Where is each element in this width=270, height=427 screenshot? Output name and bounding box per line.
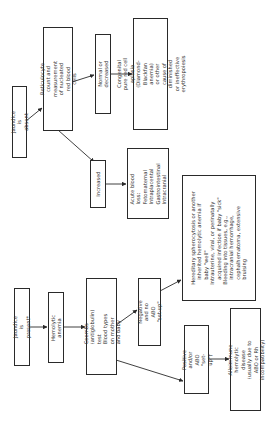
- box-negative-no-abo: Negative and no ABO "set-up": [138, 278, 161, 346]
- box-alloimmune-hemolytic: Alloimmune hemolytic disease (usually du…: [230, 308, 261, 411]
- label-increased: Increased: [95, 171, 101, 196]
- label-hereditary-spherocytosis: Hereditary spherocytosis or another inhe…: [190, 191, 248, 285]
- box-increased: Increased: [90, 160, 106, 208]
- box-hereditary-spherocytosis: Hereditary spherocytosis or another inhe…: [182, 175, 256, 301]
- label-coombs-test: Coombs (antiglobulin) test Blood types o…: [82, 309, 120, 344]
- box-coombs-test: Coombs (antiglobulin) test Blood types o…: [86, 278, 117, 375]
- box-congenital-aplasia: Congenital pure red cell aplasia (Diamon…: [133, 18, 168, 130]
- label-congenital-aplasia: Congenital pure red cell aplasia (Diamon…: [115, 56, 185, 93]
- box-hemolytic-anemia: Hemolytic anemia: [48, 292, 64, 363]
- label-jaundice-absent: Jaundice is absent: [10, 111, 29, 133]
- label-jaundice-present: Jaundice is present*: [12, 316, 31, 338]
- box-reticulocyte-count: Reticulocyte count and measurement of nu…: [43, 27, 73, 131]
- box-jaundice-present: Jaundice is present*: [14, 288, 30, 366]
- box-acute-blood-loss: Acute blood loss: Fetomaternal Intraplac…: [127, 148, 169, 219]
- label-hemolytic-anemia: Hemolytic anemia: [50, 314, 63, 340]
- label-normal-or-decreased: Normal or decreased: [97, 61, 110, 88]
- label-alloimmune-hemolytic: Alloimmune hemolytic disease (usually du…: [226, 339, 264, 380]
- box-jaundice-absent: Jaundice is absent: [12, 86, 27, 158]
- label-positive-abo: Positive and/or ABO "set-up"†: [180, 350, 212, 370]
- label-acute-blood-loss: Acute blood loss: Fetomaternal Intraplac…: [129, 163, 167, 204]
- box-normal-or-decreased: Normal or decreased: [95, 34, 111, 114]
- box-positive-abo: Positive and/or ABO "set-up"†: [184, 325, 209, 394]
- label-negative-no-abo: Negative and no ABO "set-up": [137, 300, 163, 323]
- label-reticulocyte-count: Reticulocyte count and measurement of nu…: [39, 61, 77, 97]
